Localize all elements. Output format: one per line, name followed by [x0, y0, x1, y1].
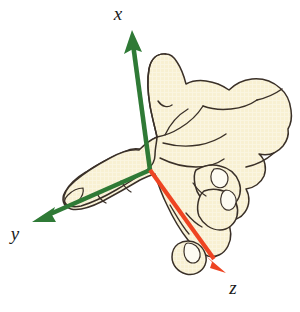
right-hand-rule-figure: x y z: [0, 0, 300, 312]
axis-label-z: z: [228, 277, 237, 298]
axis-label-y: y: [9, 223, 20, 244]
axis-label-x: x: [113, 3, 123, 24]
middle-finger-nail: [211, 169, 228, 188]
figure-container: x y z: [0, 0, 300, 312]
